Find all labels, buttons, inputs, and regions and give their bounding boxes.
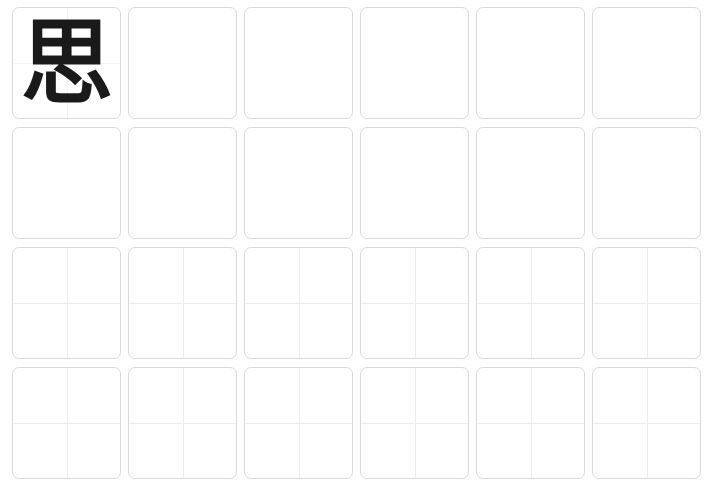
guided-practice-cell[interactable] [476,247,585,359]
practice-cell[interactable] [244,127,353,239]
practice-cell[interactable] [592,127,701,239]
guided-practice-cell[interactable] [592,367,701,479]
practice-cell[interactable] [244,7,353,119]
guided-practice-cell[interactable] [476,367,585,479]
practice-cell[interactable] [476,127,585,239]
practice-cell[interactable] [592,7,701,119]
practice-cell[interactable] [360,127,469,239]
guided-practice-cell[interactable] [12,247,121,359]
guided-practice-cell[interactable] [244,247,353,359]
practice-cell[interactable] [360,7,469,119]
guided-practice-cell[interactable] [12,367,121,479]
practice-cell[interactable] [128,127,237,239]
model-character: 思 [13,8,120,118]
model-character-cell: 思 [12,7,121,119]
practice-cell[interactable] [476,7,585,119]
practice-cell[interactable] [12,127,121,239]
practice-cell[interactable] [128,7,237,119]
guided-practice-cell[interactable] [128,247,237,359]
guided-practice-cell[interactable] [360,367,469,479]
guided-practice-cell[interactable] [244,367,353,479]
guided-practice-cell[interactable] [360,247,469,359]
practice-grid: 思 [12,7,701,479]
guided-practice-cell[interactable] [592,247,701,359]
guided-practice-cell[interactable] [128,367,237,479]
